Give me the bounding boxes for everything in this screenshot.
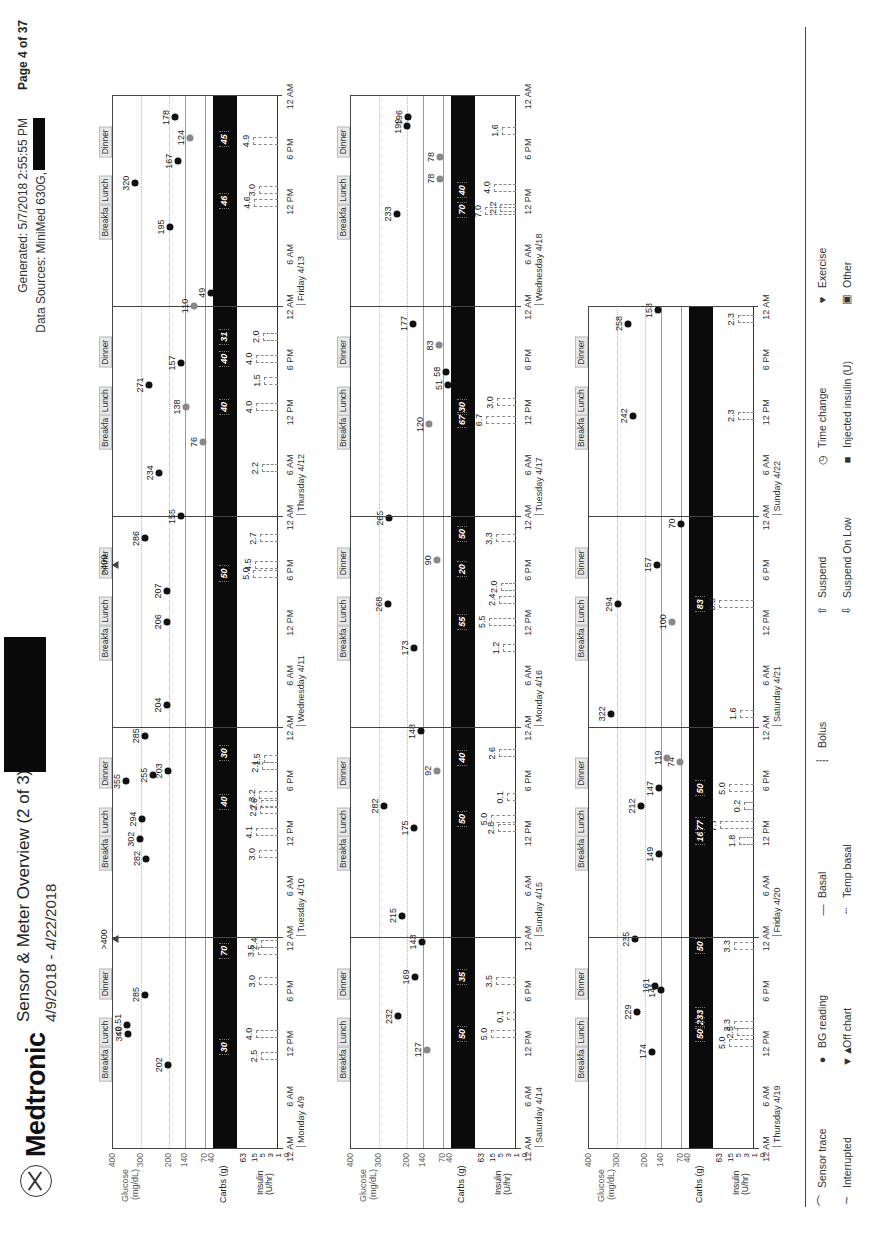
glucose-axis-label: Glucose (mg/dL) [120, 1169, 140, 1209]
basal-line [515, 727, 516, 938]
meal-marker-lunch: Lunch [575, 807, 588, 836]
medtronic-logo-icon [20, 1165, 52, 1197]
bg-reading-label: 92 [423, 766, 433, 776]
time-tick: 12 AM [523, 294, 533, 320]
off-chart-marker-icon [112, 561, 119, 569]
meal-marker-breakfa: Breakfa [337, 1046, 350, 1081]
bolus-bar [261, 1052, 278, 1060]
other-icon: ▣ [840, 293, 853, 307]
bg-reading-label: 124 [176, 130, 186, 145]
meal-marker-dinner: Dinner [337, 337, 350, 368]
bg-reading-label: 100 [658, 614, 668, 629]
carbs-band: 404031 [213, 306, 237, 517]
bolus-bar [729, 1039, 754, 1047]
bg-reading-dot [163, 618, 170, 625]
bolus-label: 2.0 [489, 580, 499, 593]
bg-reading-dot [156, 469, 163, 476]
carbs-band: 83 [689, 517, 713, 728]
bg-reading-dot [443, 368, 450, 375]
bg-reading-dot [433, 767, 440, 774]
bg-reading-label: 149 [645, 847, 655, 862]
time-tick: 12 PM [761, 1031, 771, 1057]
carb-value: 50 [457, 811, 467, 827]
bg-reading-dot [137, 836, 144, 843]
bolus-bar [253, 137, 278, 145]
target-high-line [661, 306, 662, 517]
time-tick: 6 PM [523, 981, 533, 1002]
bolus-bar [734, 942, 754, 950]
bolus-label: 7.0 [473, 205, 483, 218]
target-low-line [205, 517, 206, 728]
bolus-bar [262, 464, 278, 472]
bg-reading-dot [412, 973, 419, 980]
day-label: Tuesday 4/17 [534, 457, 544, 515]
bolus-bar [744, 802, 754, 810]
insulin-axis-label: Insulin (U/hr) [494, 1169, 512, 1195]
bolus-bar [500, 204, 516, 212]
time-tick: 12 AM [285, 84, 295, 110]
day-label: Thursday 4/12 [296, 454, 306, 516]
glucose-axis-label: Glucose (mg/dL) [358, 1169, 378, 1209]
carb-value: 31 [219, 329, 229, 345]
meal-marker-breakfa: Breakfa [575, 836, 588, 871]
time-tick: 6 AM [285, 665, 295, 686]
bolus-label: 3.3 [722, 1019, 732, 1032]
carb-value: 45 [219, 131, 229, 147]
carbs-tick: 63 [714, 1153, 724, 1162]
time-tick: 6 PM [285, 139, 295, 160]
carb-value: 50 [695, 938, 705, 954]
bolus-label: 2.7 [248, 532, 258, 545]
bg-reading-dot [132, 180, 139, 187]
bg-reading-dot [411, 645, 418, 652]
glucose-gridline [379, 727, 380, 938]
day-panel: BreakfaLunchDinner46454.63.04.9110491953… [112, 96, 283, 308]
bg-reading-label: 285 [131, 987, 141, 1002]
bolus-label: 2.4 [487, 594, 497, 607]
time-tick: 12 AM [761, 1136, 771, 1162]
bg-reading-label: 178 [161, 110, 171, 125]
bg-reading-dot [625, 320, 632, 327]
meal-marker-breakfa: Breakfa [337, 415, 350, 450]
legend-item: ∼Interrupted [840, 1067, 853, 1207]
panel-right-border [588, 306, 758, 307]
bg-reading-label: 169 [401, 969, 411, 984]
bg-reading-dot [165, 1061, 172, 1068]
legend-label: Off chart [841, 1008, 853, 1048]
carbs-axis-label: Carbs (g) [218, 1165, 228, 1203]
bg-reading-dot [380, 802, 387, 809]
bolus-label: 1.5 [252, 753, 262, 766]
meal-marker-lunch: Lunch [337, 1018, 350, 1047]
meal-marker-breakfa: Breakfa [99, 204, 112, 239]
injected-insulin-icon: ■ [841, 453, 853, 467]
bg-reading-label: 242 [619, 408, 629, 423]
bg-reading-dot [394, 210, 401, 217]
redacted-device-serial [33, 118, 45, 170]
meal-marker-lunch: Lunch [99, 386, 112, 415]
carb-value: 40 [219, 351, 229, 367]
bolus-bar [507, 793, 516, 801]
glucose-gridline [645, 517, 646, 728]
time-tick: 12 PM [285, 1031, 295, 1057]
bg-reading-label: 255 [139, 768, 149, 783]
day-panel: BreakfaLunchDinner1677501.87.70.25.01492… [588, 727, 759, 939]
day-panel: BreakfaLunchDinner50233505.02.53.33.3174… [588, 938, 759, 1150]
carbs-band: 5035 [451, 938, 475, 1149]
carb-value: 33 [695, 1007, 705, 1023]
carb-value: 50 [457, 526, 467, 542]
glucose-tick: 140 [179, 1153, 189, 1167]
bg-reading-dot [657, 987, 664, 994]
bolus-label: 2.3 [726, 313, 736, 326]
bolus-bar [253, 570, 278, 578]
basal-line [277, 517, 278, 728]
bolus-label: 4.5 [243, 558, 253, 571]
bolus-bar [256, 1030, 278, 1038]
bolus-label: 6.7 [474, 414, 484, 427]
legend-item: ■Injected insulin (U) [840, 307, 853, 467]
carb-value: 77 [695, 817, 705, 833]
legend-label: Sensor trace [816, 1128, 828, 1188]
target-high-line [185, 938, 186, 1149]
bolus-label: 0.1 [495, 1010, 505, 1023]
bg-reading-dot [425, 421, 432, 428]
time-tick: 12 PM [285, 399, 295, 425]
bg-reading-dot [141, 991, 148, 998]
